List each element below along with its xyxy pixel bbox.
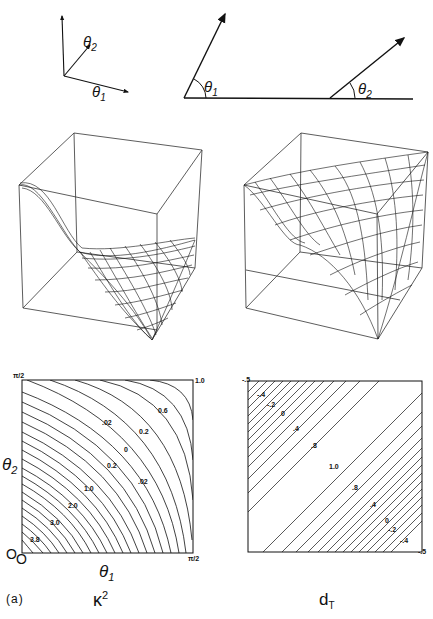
axes-diagram xyxy=(62,16,128,92)
x-max-tick: π/2 xyxy=(188,555,199,562)
corner-bottom-right: -.5 xyxy=(418,548,426,555)
contour-label: 2.0 xyxy=(68,502,78,509)
contour-label: -.4 xyxy=(257,391,265,398)
contour-label: -.4 xyxy=(400,537,408,544)
corner-value: 1.0 xyxy=(195,377,205,384)
contour-label: -.2 xyxy=(388,526,396,533)
angle-diagram xyxy=(184,14,413,99)
contour-label: 0 xyxy=(385,517,389,524)
contour-label: .8 xyxy=(311,442,317,449)
contour-label: 1.0 xyxy=(84,485,94,492)
surface-plot-dT xyxy=(244,133,428,339)
contour-label: .02 xyxy=(138,478,148,485)
angle1-label: θ1 xyxy=(204,78,218,98)
contour-label: .4 xyxy=(370,501,376,508)
contour-label: 1.0 xyxy=(329,463,339,470)
contour-label: .02 xyxy=(102,419,112,426)
kappa-caption: κ2 xyxy=(93,589,108,611)
y-max-tick: π/2 xyxy=(13,372,24,379)
contour-label: 0.2 xyxy=(139,428,149,435)
contour-label: 3.8 xyxy=(30,536,40,543)
angle2-label: θ2 xyxy=(358,80,372,100)
panel-label: (a) xyxy=(6,592,24,606)
contour-label: 0.2 xyxy=(107,462,117,469)
origin-x: O xyxy=(16,551,27,567)
contour-label: 0 xyxy=(124,446,128,453)
corner-top-left: -.5 xyxy=(242,376,250,383)
contour-label: -.2 xyxy=(267,401,275,408)
x-axis-label: θ1 xyxy=(99,562,114,583)
axis2-label: θ2 xyxy=(83,33,97,53)
contour-label: .8 xyxy=(352,484,358,491)
y-axis-label: θ2 xyxy=(2,455,17,476)
dT-caption: dT xyxy=(319,590,335,611)
surface-plot-kappa xyxy=(19,133,202,340)
contour-label: .4 xyxy=(293,425,299,432)
contour-label: 3.0 xyxy=(50,519,60,526)
axis1-label: θ1 xyxy=(92,83,106,103)
contour-label: 0 xyxy=(281,410,285,417)
contour-label: 0.6 xyxy=(158,407,168,414)
